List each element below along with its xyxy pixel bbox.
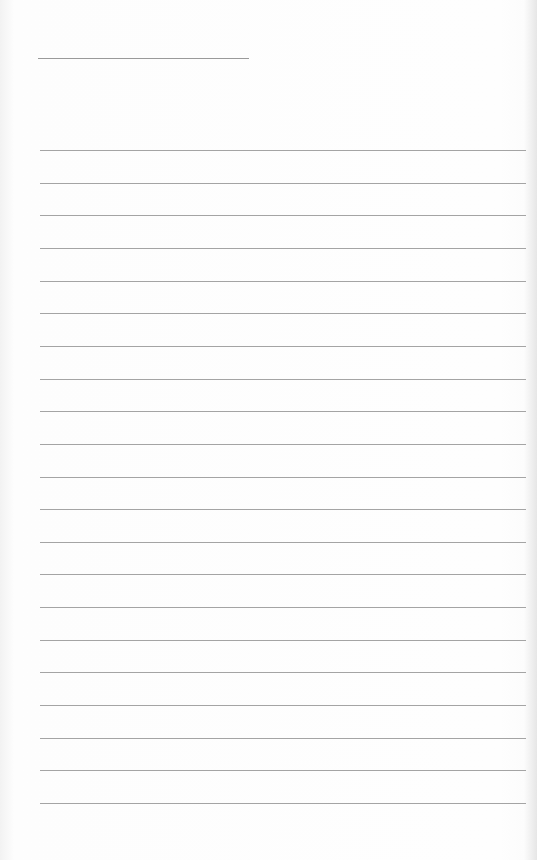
rule-line [40, 542, 526, 543]
rule-line [40, 150, 526, 151]
rule-line [40, 346, 526, 347]
rule-line [40, 477, 526, 478]
rule-line [40, 444, 526, 445]
rule-line [40, 672, 526, 673]
rule-line [40, 248, 526, 249]
rule-line [40, 574, 526, 575]
rule-line [40, 607, 526, 608]
rule-line [40, 281, 526, 282]
rule-line [40, 379, 526, 380]
rule-line [40, 183, 526, 184]
rule-line [40, 738, 526, 739]
rule-line [40, 803, 526, 804]
rule-line [40, 770, 526, 771]
ruled-lines [40, 0, 526, 860]
rule-line [40, 215, 526, 216]
rule-line [40, 640, 526, 641]
rule-line [40, 509, 526, 510]
rule-line [40, 313, 526, 314]
lined-paper [0, 0, 537, 860]
rule-line [40, 411, 526, 412]
rule-line [40, 705, 526, 706]
